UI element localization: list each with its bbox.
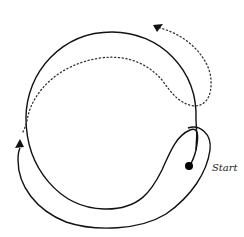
diagram-svg xyxy=(0,0,244,237)
dotted-path xyxy=(23,28,211,132)
circle-boundary xyxy=(26,32,198,209)
solid-path xyxy=(18,127,210,228)
start-point xyxy=(185,162,193,170)
arrowhead-up-icon xyxy=(15,139,24,148)
diagram-canvas: Start xyxy=(0,0,244,237)
circle-right-arc xyxy=(196,120,197,150)
start-label: Start xyxy=(212,162,238,173)
arrowhead-up-left-icon xyxy=(153,24,163,32)
